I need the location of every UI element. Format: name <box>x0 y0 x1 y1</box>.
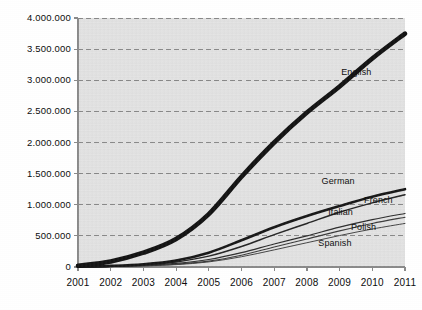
y-tick-label-4000000: 4.000.000 <box>27 12 71 23</box>
series-label-french: French <box>364 195 393 205</box>
x-tick-label-2003: 2003 <box>127 277 159 288</box>
y-tick-label-1000000: 1.000.000 <box>27 199 71 210</box>
x-tick-label-2001: 2001 <box>62 277 94 288</box>
x-tick-label-2007: 2007 <box>258 277 290 288</box>
x-tick-label-2006: 2006 <box>226 277 258 288</box>
y-tick-label-0: 0 <box>66 261 71 272</box>
x-tick-label-2009: 2009 <box>324 277 356 288</box>
x-tick-label-2005: 2005 <box>193 277 225 288</box>
y-tick-label-500000: 500.000 <box>35 230 71 241</box>
series-label-polish: Polish <box>351 222 376 232</box>
y-tick-label-1500000: 1.500.000 <box>27 168 71 179</box>
y-tick-label-3000000: 3.000.000 <box>27 74 71 85</box>
y-tick-label-3500000: 3.500.000 <box>27 43 71 54</box>
series-label-english: English <box>341 67 371 77</box>
series-label-italian: Italian <box>328 207 353 217</box>
series-label-spanish: Spanish <box>318 238 351 248</box>
x-tick-label-2004: 2004 <box>160 277 192 288</box>
y-tick-label-2000000: 2.000.000 <box>27 137 71 148</box>
chart-container: 0500.0001.000.0001.500.0002.000.0002.500… <box>0 0 422 310</box>
x-tick-label-2008: 2008 <box>291 277 323 288</box>
x-tick-label-2010: 2010 <box>356 277 388 288</box>
series-label-german: German <box>322 176 355 186</box>
x-tick-label-2002: 2002 <box>95 277 127 288</box>
x-tick-label-2011: 2011 <box>389 277 421 288</box>
y-tick-label-2500000: 2.500.000 <box>27 105 71 116</box>
